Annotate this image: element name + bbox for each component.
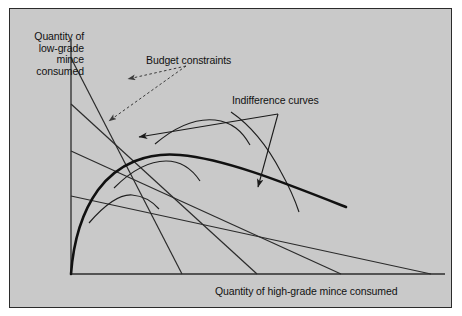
figure-screenshot: Quantity of low-grade mince consumed Qua… — [0, 0, 462, 316]
budget-constraints-callout — [109, 66, 186, 121]
indifference-arrow-left — [139, 114, 278, 137]
budget-arrow-lower — [109, 66, 186, 121]
axes — [71, 39, 445, 274]
figure-panel: Quantity of low-grade mince consumed Qua… — [9, 8, 452, 308]
indifference-curves-callout — [139, 114, 278, 187]
indifference-curves-label: Indifference curves — [232, 95, 362, 107]
x-axis-label: Quantity of high-grade mince consumed — [215, 286, 445, 298]
budget-line-3 — [71, 151, 341, 274]
budget-line-4 — [71, 196, 431, 274]
budget-constraints-label: Budget constraints — [146, 55, 266, 67]
y-axis-label: Quantity of low-grade mince consumed — [12, 31, 84, 77]
